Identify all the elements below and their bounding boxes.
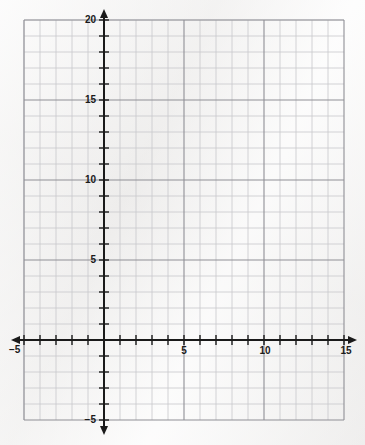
x-tick-label-neg5: −5 (9, 345, 39, 355)
coordinate-plane (0, 0, 365, 445)
y-tick-label-5: 5 (62, 255, 96, 265)
graph-paper-page: −5 5 10 15 20 15 10 5 −5 (0, 0, 365, 445)
arrow-up-icon (100, 9, 108, 18)
y-tick-label-15: 15 (62, 95, 96, 105)
y-tick-label-neg5: −5 (62, 415, 96, 425)
x-tick-label-5: 5 (169, 346, 199, 356)
y-tick-label-20: 20 (62, 15, 96, 25)
x-tick-label-10: 10 (250, 346, 280, 356)
x-axis-tick-marks (24, 335, 344, 345)
arrow-down-icon (100, 426, 108, 435)
y-tick-label-10: 10 (62, 175, 96, 185)
arrow-right-icon (348, 336, 357, 344)
arrow-left-icon (11, 336, 20, 344)
x-tick-label-15: 15 (331, 346, 361, 356)
